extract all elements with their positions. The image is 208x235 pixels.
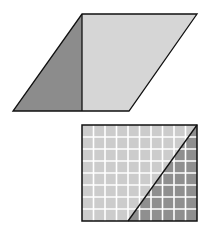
geometry-figure [0,0,208,235]
grid-rectangle [82,125,197,221]
parallelogram [13,14,197,111]
